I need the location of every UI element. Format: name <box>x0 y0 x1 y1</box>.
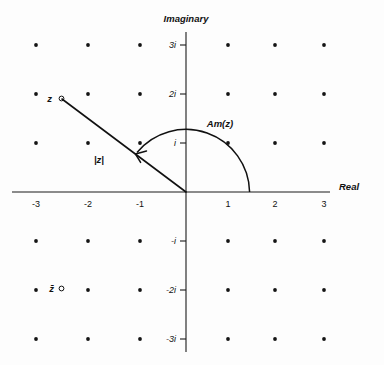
real-tick-label-1: 1 <box>225 199 230 209</box>
imaginary-tick-label-neg-i: -i <box>171 236 177 246</box>
lattice-dot <box>322 288 326 292</box>
lattice-dot <box>34 141 38 145</box>
z-label: z <box>46 93 52 104</box>
argument-arc <box>137 129 250 192</box>
lattice-dot <box>86 239 90 243</box>
lattice-dot <box>273 43 277 47</box>
lattice-dot <box>138 239 142 243</box>
imaginary-tick-label-neg-2i: -2i <box>166 285 177 295</box>
lattice-dot <box>322 92 326 96</box>
lattice-dot <box>138 288 142 292</box>
lattice-dot <box>226 43 230 47</box>
real-tick-label-2: 2 <box>272 199 277 209</box>
real-axis-title: Real <box>339 181 359 192</box>
lattice-dot <box>86 141 90 145</box>
modulus-label: |z| <box>94 154 104 165</box>
imaginary-tick-label-i: i <box>174 138 177 148</box>
lattice-dot <box>86 43 90 47</box>
lattice-dot <box>86 92 90 96</box>
lattice-dot <box>273 141 277 145</box>
lattice-dot <box>322 337 326 341</box>
lattice-dot <box>34 92 38 96</box>
lattice-dot <box>34 288 38 292</box>
lattice-dot <box>322 141 326 145</box>
lattice-dot <box>86 337 90 341</box>
lattice-dot <box>273 92 277 96</box>
real-tick-label-3: 3 <box>321 199 326 209</box>
imaginary-tick-label-3i: 3i <box>169 40 177 50</box>
z-conjugate-point-marker <box>59 286 64 291</box>
lattice-dot <box>226 92 230 96</box>
lattice-dot <box>138 43 142 47</box>
imaginary-tick-label-2i: 2i <box>168 89 177 99</box>
lattice-dot <box>34 337 38 341</box>
lattice-dot <box>138 141 142 145</box>
argand-diagram-figure: Imaginary Real 3i 2i i -i -2i -3i -3 -2 … <box>0 0 384 365</box>
argument-label: Am(z) <box>206 118 233 129</box>
lattice-dot <box>322 239 326 243</box>
lattice-dot <box>273 337 277 341</box>
real-tick-label-neg-2: -2 <box>84 199 92 209</box>
lattice-dot <box>34 239 38 243</box>
lattice-dot <box>226 288 230 292</box>
lattice-dot <box>273 288 277 292</box>
lattice-dot <box>273 239 277 243</box>
real-tick-label-neg-1: -1 <box>136 199 144 209</box>
imaginary-tick-label-neg-3i: -3i <box>166 334 177 344</box>
z-conjugate-label: z̄ <box>48 283 54 294</box>
lattice-dot <box>226 337 230 341</box>
imaginary-axis-title: Imaginary <box>164 13 210 24</box>
lattice-dot <box>322 43 326 47</box>
complex-plane-canvas: Imaginary Real 3i 2i i -i -2i -3i -3 -2 … <box>0 0 384 365</box>
real-tick-label-neg-3: -3 <box>32 199 40 209</box>
lattice-dot <box>86 288 90 292</box>
lattice-dot <box>226 239 230 243</box>
lattice-dot <box>34 43 38 47</box>
lattice-dot <box>138 92 142 96</box>
lattice-dot <box>138 337 142 341</box>
modulus-vector-line <box>62 99 186 192</box>
